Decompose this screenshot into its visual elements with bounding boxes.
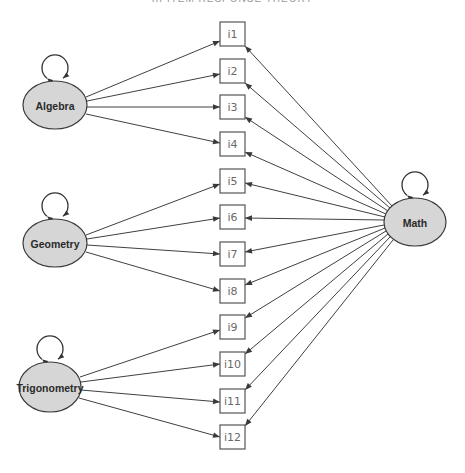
edge-math-to-i6 xyxy=(245,218,384,220)
edge-geometry-to-i8 xyxy=(86,252,220,291)
item-label: i5 xyxy=(227,175,237,188)
edge-algebra-to-i2 xyxy=(87,74,220,101)
item-label: i8 xyxy=(227,285,237,298)
latent-label: Geometry xyxy=(30,238,79,250)
edge-trigonometry-to-i11 xyxy=(81,390,220,402)
latent-label: Trigonometry xyxy=(16,382,83,394)
item-label: i7 xyxy=(227,248,237,261)
item-node-i11: i11 xyxy=(220,389,245,413)
variance-loop-math xyxy=(402,172,428,195)
latent-node-algebra: Algebra xyxy=(23,81,87,129)
item-node-i6: i6 xyxy=(220,205,245,229)
edge-trigonometry-to-i9 xyxy=(80,330,220,377)
latent-label: Algebra xyxy=(35,100,74,112)
edge-math-to-i3 xyxy=(245,117,388,211)
item-node-i8: i8 xyxy=(220,279,245,303)
latent-label: Math xyxy=(403,217,428,229)
variance-loop-geometry xyxy=(42,193,68,216)
item-node-i4: i4 xyxy=(220,132,245,156)
edge-math-to-i11 xyxy=(245,237,390,390)
edge-math-to-i1 xyxy=(245,46,392,206)
irt-path-diagram: i1i2i3i4i5i6i7i8i9i10i11i12 AlgebraGeome… xyxy=(0,0,465,473)
item-label: i9 xyxy=(227,321,237,334)
item-node-i2: i2 xyxy=(220,59,245,83)
item-node-i5: i5 xyxy=(220,169,245,193)
item-node-i9: i9 xyxy=(220,315,245,339)
item-node-i3: i3 xyxy=(220,95,245,119)
item-label: i3 xyxy=(227,101,237,114)
edge-math-to-i12 xyxy=(245,240,393,426)
item-label: i4 xyxy=(227,138,237,151)
item-label: i10 xyxy=(224,358,241,371)
edge-math-to-i2 xyxy=(245,83,390,208)
observed-items-layer: i1i2i3i4i5i6i7i8i9i10i11i12 xyxy=(220,22,245,449)
edge-geometry-to-i6 xyxy=(87,218,220,239)
edge-geometry-to-i5 xyxy=(86,184,220,235)
item-node-i10: i10 xyxy=(220,352,245,376)
latent-node-math: Math xyxy=(384,198,446,246)
edge-trigonometry-to-i12 xyxy=(79,398,220,437)
edge-math-to-i5 xyxy=(245,183,385,217)
item-node-i12: i12 xyxy=(220,425,245,449)
latent-node-geometry: Geometry xyxy=(23,219,87,267)
edge-math-to-i4 xyxy=(245,152,386,214)
item-label: i6 xyxy=(227,211,237,224)
latent-node-trigonometry: Trigonometry xyxy=(16,362,83,412)
item-node-i7: i7 xyxy=(220,242,245,266)
item-label: i2 xyxy=(227,65,237,78)
item-label: i1 xyxy=(227,28,237,41)
edge-algebra-to-i4 xyxy=(86,114,220,143)
edge-trigonometry-to-i10 xyxy=(81,364,220,382)
edge-math-to-i7 xyxy=(245,225,384,252)
item-label: i12 xyxy=(224,431,241,444)
edge-geometry-to-i7 xyxy=(87,245,220,254)
edge-math-to-i9 xyxy=(245,231,386,318)
edge-algebra-to-i1 xyxy=(86,41,220,97)
item-label: i11 xyxy=(224,395,241,408)
item-node-i1: i1 xyxy=(220,22,245,46)
variance-loop-trigonometry xyxy=(37,336,63,359)
variance-loop-algebra xyxy=(42,55,68,78)
